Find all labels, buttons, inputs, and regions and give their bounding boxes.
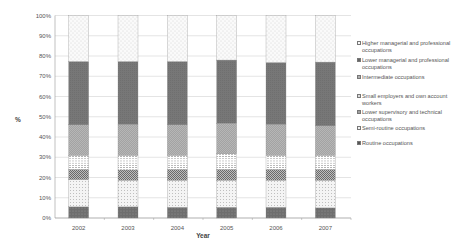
bar-2005 xyxy=(217,16,237,219)
legend-swatch-icon xyxy=(357,126,361,130)
y-tick-label: 40% xyxy=(39,134,52,140)
bar-segment xyxy=(167,207,187,218)
legend-swatch-icon xyxy=(357,141,361,145)
bar-segment xyxy=(217,16,237,61)
bar-segment xyxy=(118,124,138,155)
y-tick-label: 60% xyxy=(39,94,52,100)
legend-item-semi-routine: Semi-routine occupations xyxy=(357,125,452,140)
y-tick-label: 10% xyxy=(39,195,52,201)
legend-label: Small employers and own account workers xyxy=(362,93,452,106)
x-tick-label: 2002 xyxy=(72,225,86,231)
legend-swatch-icon xyxy=(357,75,361,79)
x-tick-label: 2003 xyxy=(121,225,135,231)
legend-swatch-icon xyxy=(357,58,361,62)
bar-segment xyxy=(69,155,89,169)
bar-segment xyxy=(69,125,89,155)
y-axis-ticks: 0%10%20%30%40%50%60%70%80%90%100% xyxy=(36,13,52,222)
bar-segment xyxy=(167,169,187,180)
bar-segment xyxy=(315,62,335,126)
bar-segment xyxy=(217,60,237,123)
legend-label: Lower supervisory and technical occupati… xyxy=(362,109,452,122)
x-axis-ticks: 200220032004200520062007 xyxy=(72,218,351,231)
legend-swatch-icon xyxy=(357,94,361,98)
bar-segment xyxy=(167,61,187,124)
bar-segment xyxy=(266,16,286,63)
bar-segment xyxy=(217,123,237,154)
bar-segment xyxy=(315,126,335,155)
bar-segment xyxy=(118,155,138,170)
x-axis-title: Year xyxy=(196,232,210,239)
bar-segment xyxy=(315,155,335,169)
legend-item-lower-supervisory: Lower supervisory and technical occupati… xyxy=(357,109,452,125)
legend-item-intermediate: Intermediate occupations xyxy=(357,74,452,93)
bar-segment xyxy=(118,180,138,207)
legend-label: Lower managerial and professional occupa… xyxy=(362,57,452,70)
bar-segment xyxy=(266,124,286,155)
legend-item-lower-managerial: Lower managerial and professional occupa… xyxy=(357,57,452,74)
gridlines xyxy=(55,16,351,219)
bar-segment xyxy=(118,16,138,62)
y-tick-label: 80% xyxy=(39,53,52,59)
y-tick-label: 0% xyxy=(42,215,51,221)
x-tick-label: 2007 xyxy=(319,225,333,231)
bar-2007 xyxy=(315,16,335,219)
bar-segment xyxy=(118,61,138,124)
legend-item-higher-managerial: Higher managerial and professional occup… xyxy=(357,40,452,57)
y-tick-label: 100% xyxy=(36,13,52,19)
y-tick-label: 20% xyxy=(39,175,52,181)
bar-segment xyxy=(69,16,89,62)
bar-segment xyxy=(217,180,237,207)
legend-swatch-icon xyxy=(357,41,361,45)
bar-segment xyxy=(315,16,335,63)
legend-label: Routine occupations xyxy=(362,140,452,147)
bar-segment xyxy=(118,170,138,180)
bar-segment xyxy=(266,207,286,218)
x-tick-label: 2006 xyxy=(269,225,283,231)
legend-label: Semi-routine occupations xyxy=(362,125,452,132)
bar-2006 xyxy=(266,16,286,219)
legend-swatch-icon xyxy=(357,110,361,114)
bar-segment xyxy=(167,180,187,207)
legend-item-small-employers: Small employers and own account workers xyxy=(357,93,452,109)
y-tick-label: 50% xyxy=(39,114,52,120)
bar-segment xyxy=(266,155,286,169)
bar-segment xyxy=(315,180,335,208)
bar-2002 xyxy=(69,16,89,219)
bar-2003 xyxy=(118,16,138,219)
bar-segment xyxy=(266,180,286,207)
bar-segment xyxy=(266,169,286,180)
bar-segment xyxy=(217,169,237,180)
legend: Higher managerial and professional occup… xyxy=(357,40,452,150)
bar-segment xyxy=(266,62,286,124)
y-axis-title: % xyxy=(15,116,21,123)
legend-item-routine: Routine occupations xyxy=(357,140,452,150)
bar-segment xyxy=(118,207,138,218)
bar-segment xyxy=(315,208,335,218)
y-tick-label: 70% xyxy=(39,73,52,79)
y-tick-label: 90% xyxy=(39,33,52,39)
bar-segment xyxy=(69,169,89,179)
bar-segment xyxy=(217,207,237,218)
bar-segment xyxy=(69,180,89,207)
bar-2004 xyxy=(167,16,187,219)
y-tick-label: 30% xyxy=(39,154,52,160)
legend-label: Higher managerial and professional occup… xyxy=(362,40,452,53)
bar-segment xyxy=(167,125,187,155)
x-tick-label: 2005 xyxy=(220,225,234,231)
bar-segment xyxy=(167,16,187,62)
bar-segment xyxy=(315,169,335,180)
bar-segment xyxy=(69,207,89,218)
bar-segment xyxy=(217,154,237,170)
bar-segment xyxy=(167,155,187,169)
x-tick-label: 2004 xyxy=(171,225,185,231)
bar-segment xyxy=(69,61,89,124)
legend-label: Intermediate occupations xyxy=(362,74,452,81)
